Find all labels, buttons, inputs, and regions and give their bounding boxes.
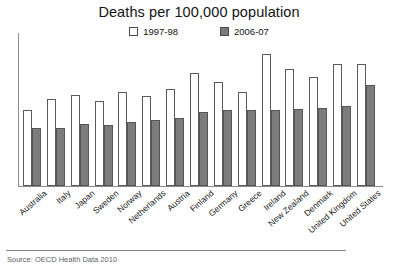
x-axis-category-labels: AustraliaItalyJapanSwedenNorwayNetherlan… <box>18 188 380 250</box>
bar <box>175 118 184 186</box>
bar <box>32 128 41 186</box>
y-axis-line <box>18 33 19 186</box>
bar <box>199 112 208 186</box>
x-axis-label: Greece <box>236 188 264 214</box>
bar-group <box>163 33 187 186</box>
bar <box>71 95 80 186</box>
bar <box>357 64 366 186</box>
bar <box>285 69 294 186</box>
bar <box>318 108 327 186</box>
bar-group <box>306 33 330 186</box>
source-note: Source: OECD Health Data 2010 <box>7 255 117 264</box>
bar-group <box>20 33 44 186</box>
bar <box>166 89 175 186</box>
bar-group <box>115 33 139 186</box>
bar <box>80 124 89 186</box>
bar <box>127 122 136 186</box>
bar <box>262 54 271 186</box>
bar-group <box>282 33 306 186</box>
bar <box>190 73 199 186</box>
bar-group <box>211 33 235 186</box>
bar <box>294 109 303 186</box>
x-axis-label: Sweden <box>90 188 120 216</box>
bar <box>333 64 342 186</box>
bar <box>47 99 56 186</box>
bar-group <box>139 33 163 186</box>
footer-divider <box>6 250 346 251</box>
x-axis-line <box>18 186 383 187</box>
bars-layer <box>20 33 378 186</box>
bar <box>56 128 65 186</box>
bar <box>104 125 113 186</box>
bar <box>309 77 318 186</box>
bar <box>342 106 351 186</box>
bar <box>142 96 151 186</box>
bar-group <box>44 33 68 186</box>
bar-group <box>187 33 211 186</box>
x-axis-label: Australia <box>17 188 49 217</box>
bar <box>247 110 256 186</box>
bar <box>271 110 280 186</box>
chart-figure: Deaths per 100,000 population 1997-98 20… <box>0 0 398 264</box>
bar-group <box>259 33 283 186</box>
x-axis-label: Italy <box>54 188 72 206</box>
x-axis-label: Austria <box>165 188 192 213</box>
bar-group <box>92 33 116 186</box>
plot-area <box>18 33 380 186</box>
bar <box>238 92 247 186</box>
bar <box>118 92 127 186</box>
chart-title: Deaths per 100,000 population <box>0 4 398 20</box>
bar-group <box>68 33 92 186</box>
bar <box>366 85 375 186</box>
bar-group <box>354 33 378 186</box>
bar <box>95 101 104 186</box>
bar <box>151 120 160 186</box>
bar <box>223 110 232 186</box>
bar-group <box>330 33 354 186</box>
bar <box>214 82 223 186</box>
bar-group <box>235 33 259 186</box>
bar <box>23 110 32 186</box>
